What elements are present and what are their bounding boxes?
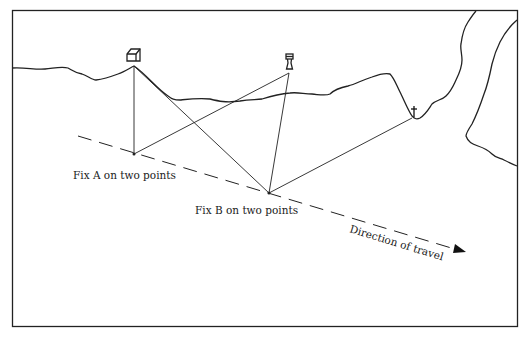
house-icon [127,49,140,61]
direction-label: Direction of travel [348,222,445,262]
arrow-head-icon [453,244,466,253]
fix-a-point [133,153,136,156]
navigation-diagram: Fix A on two points Fix B on two points … [0,0,524,341]
river-bank [466,20,517,166]
fix-b-point [268,192,271,195]
lighthouse-icon [286,54,293,69]
coastline [12,11,476,119]
fix-a-label: Fix A on two points [73,169,176,181]
fix-b-label: Fix B on two points [195,204,298,216]
